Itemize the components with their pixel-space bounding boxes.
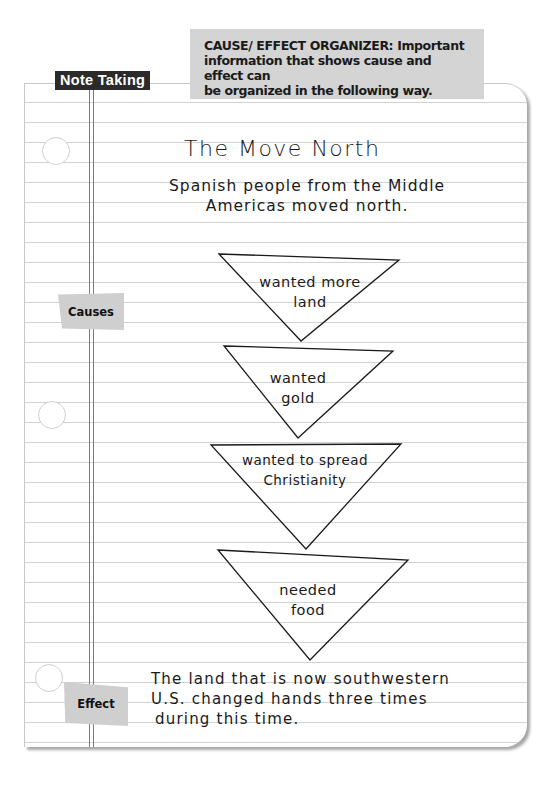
organizer-line: be organized in the following way.	[204, 83, 474, 98]
effect-label: Effect	[64, 682, 128, 726]
cause-line: food	[268, 600, 348, 620]
effect-line: The land that is now southwestern	[151, 669, 450, 689]
cause-line: gold	[248, 388, 348, 408]
cause-text-4: needed food	[268, 580, 348, 620]
cause-line: wanted	[248, 368, 348, 388]
effect-line: U.S. changed hands three times	[151, 689, 450, 709]
organizer-line: information that shows cause and effect …	[204, 53, 474, 83]
effect-line: during this time.	[151, 709, 450, 729]
causes-label-text: Causes	[68, 305, 114, 319]
organizer-description: CAUSE/ EFFECT ORGANIZER: Important infor…	[190, 29, 484, 99]
cause-text-1: wanted more land	[250, 272, 370, 312]
cause-line: needed	[268, 580, 348, 600]
effect-label-text: Effect	[77, 697, 114, 711]
cause-text-2: wanted gold	[248, 368, 348, 408]
note-taking-label: Note Taking	[55, 71, 150, 90]
cause-line: wanted to spread	[225, 450, 385, 470]
organizer-line: CAUSE/ EFFECT ORGANIZER: Important	[204, 38, 474, 53]
cause-line: Christianity	[225, 470, 385, 490]
cause-line: wanted more	[250, 272, 370, 292]
cause-text-3: wanted to spread Christianity	[225, 450, 385, 490]
effect-text: The land that is now southwestern U.S. c…	[151, 669, 450, 729]
cause-line: land	[250, 292, 370, 312]
causes-label: Causes	[58, 293, 124, 330]
